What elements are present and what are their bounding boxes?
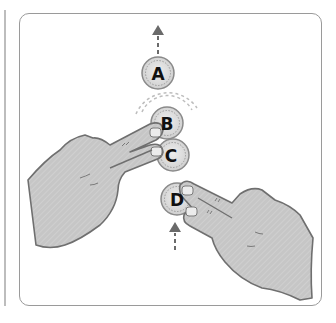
right-hand-icon: [180, 181, 313, 300]
label-d: D: [170, 190, 184, 210]
arrow-up-bottom-icon: [169, 222, 181, 250]
left-hand-icon: [28, 123, 163, 248]
label-b: B: [161, 114, 174, 134]
gesture-illustration: A B C D: [0, 0, 336, 323]
label-a: A: [151, 64, 165, 84]
label-c: C: [165, 146, 177, 166]
touch-point-a: A: [142, 57, 174, 89]
arrow-up-top-icon: [152, 25, 164, 54]
